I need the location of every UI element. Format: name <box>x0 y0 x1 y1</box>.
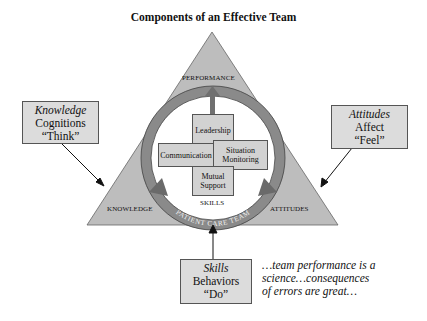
knowledge-label: KNOWLEDGE <box>107 205 153 213</box>
skills-line2: Behaviors <box>181 275 251 288</box>
attitudes-callout-box: Attitudes Affect “Feel” <box>331 105 408 149</box>
leadership-text: Leadership <box>195 126 231 135</box>
component-communication: Communication <box>158 143 214 167</box>
team-performance-quote: …team performance is a science…consequen… <box>262 259 375 298</box>
performance-label: PERFORMANCE <box>182 74 235 82</box>
knowledge-callout-box: Knowledge Cognitions “Think” <box>22 101 99 144</box>
skills-label: SKILLS <box>200 199 224 207</box>
skills-heading: Skills <box>181 262 251 275</box>
knowledge-arrow-line <box>62 144 101 183</box>
attitudes-line3: “Feel” <box>332 134 407 147</box>
component-mutual-support: Mutual Support <box>192 166 234 196</box>
attitudes-label: ATTITUDES <box>270 205 309 213</box>
attitudes-line2: Affect <box>332 121 407 134</box>
mutual-support-text: Mutual Support <box>200 172 225 190</box>
skills-line3: “Do” <box>181 288 251 301</box>
communication-text: Communication <box>160 151 212 160</box>
knowledge-line2: Cognitions <box>23 117 98 130</box>
knowledge-heading: Knowledge <box>23 104 98 117</box>
situation-monitoring-text: Situation Monitoring <box>222 146 258 164</box>
attitudes-heading: Attitudes <box>332 108 407 121</box>
skills-callout-box: Skills Behaviors “Do” <box>180 259 252 304</box>
knowledge-line3: “Think” <box>23 130 98 143</box>
attitudes-arrow-line <box>324 148 352 183</box>
